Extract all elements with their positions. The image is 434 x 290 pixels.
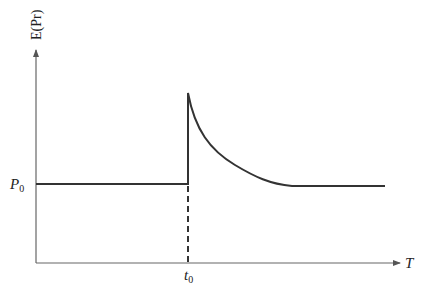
- chart-canvas: E(Pr) T P0 t0: [0, 0, 434, 290]
- x-tick-label-t0: t0: [184, 267, 193, 285]
- x-axis-label: T: [405, 255, 415, 271]
- series-line: [36, 93, 385, 186]
- y-tick-label-p0: P0: [9, 176, 24, 194]
- y-axis-label: E(Pr): [29, 9, 45, 40]
